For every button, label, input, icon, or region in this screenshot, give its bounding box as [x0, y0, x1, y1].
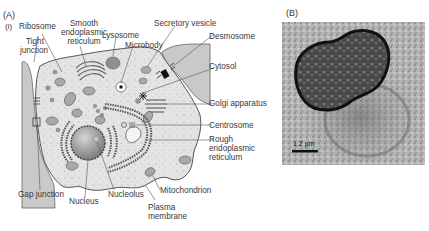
label-secretory-vesicle: Secretory vesicle — [154, 19, 216, 28]
label-tight-junction-1: Tight — [18, 37, 52, 46]
label-smooth-er-1: Smooth — [64, 19, 104, 28]
label-rough-er-1: Rough — [209, 135, 233, 144]
label-tight-junction-2: junction — [14, 46, 54, 55]
scale-bar-label: 1.2 µm — [293, 140, 315, 147]
label-gap-junction: Gap junction — [18, 190, 64, 199]
label-rough-er-3: reticulum — [209, 153, 242, 162]
label-centrosome: Centrosome — [209, 121, 254, 130]
label-nucleolus: Nucleolus — [108, 190, 144, 199]
nucleus-shape — [71, 126, 105, 160]
label-mitochondrion: Mitochondrion — [160, 186, 211, 195]
label-microbody: Microbody — [125, 41, 163, 50]
label-golgi: Golgi apparatus — [209, 99, 267, 108]
label-ribosome: Ribosome — [19, 22, 56, 31]
label-desmosome: Desmosome — [209, 32, 255, 41]
label-nucleus: Nucleus — [69, 197, 99, 206]
electron-micrograph: 1.2 µm — [282, 22, 425, 165]
label-plasma-membrane-2: membrane — [148, 212, 187, 221]
label-lysosome: Lysosome — [102, 31, 139, 40]
label-plasma-membrane-1: Plasma — [148, 203, 175, 212]
lysosome-shape — [106, 57, 120, 69]
label-rough-er-2: endoplasmic — [209, 144, 255, 153]
label-cytosol: Cytosol — [209, 62, 236, 71]
